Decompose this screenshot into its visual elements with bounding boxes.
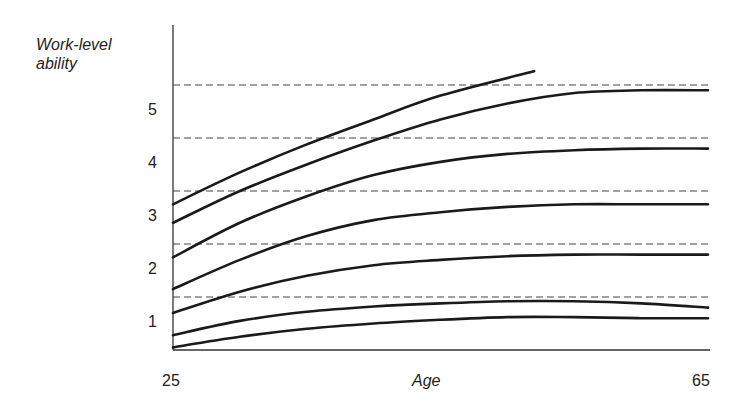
- ability-curves: [173, 71, 708, 347]
- plot-area: [0, 0, 743, 407]
- curve-3: [173, 148, 708, 257]
- curve-2: [173, 90, 708, 223]
- curve-7: [173, 317, 708, 348]
- dashed-level-lines: [173, 85, 708, 297]
